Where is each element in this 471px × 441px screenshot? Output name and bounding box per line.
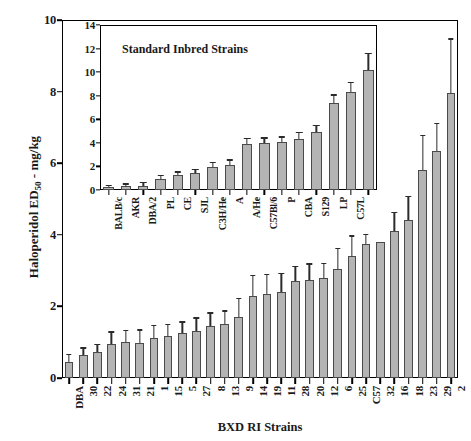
inset-error-cap (261, 137, 267, 138)
main-y-tick-label: 4 (50, 227, 56, 242)
figure-canvas: 0246810 Haloperidol ED50 - mg/kg DBA3022… (0, 0, 471, 441)
inset-x-tick-label: C3H/He (217, 197, 228, 230)
main-error-cap (165, 324, 170, 325)
main-bar (263, 294, 272, 378)
main-error-bar (238, 299, 239, 317)
inset-x-tick-label: DBA/2 (147, 197, 158, 224)
main-y-tick-label: 2 (50, 299, 56, 314)
inset-error-cap (192, 169, 198, 170)
main-bar (234, 317, 243, 378)
inset-x-tick-mark (195, 190, 196, 195)
inset-bar-group (242, 25, 252, 190)
inset-y-axis: 02468101214 (62, 25, 100, 190)
main-x-tick-mark (252, 378, 254, 384)
main-x-tick-label: 30 (87, 386, 99, 397)
main-error-bar (295, 267, 296, 281)
main-x-tick-mark (224, 378, 226, 384)
main-x-tick-label: 24 (116, 386, 128, 397)
inset-bar-group (103, 25, 113, 190)
main-error-cap (137, 329, 142, 330)
main-bar (291, 281, 300, 378)
inset-x-tick-label: SJL (199, 197, 210, 213)
inset-x-tick-label: S129 (320, 197, 331, 216)
inset-bar (207, 167, 217, 190)
inset-x-tick-labels: BALB/cAKRDBA/2PLCESJLC3H/HeAA/HeC57Bl/6P… (100, 197, 377, 242)
main-x-tick-labels: DBA30222431211155278139141911282012625C5… (62, 386, 458, 422)
inset-x-tick-mark (143, 190, 144, 195)
inset-error-bar (333, 96, 334, 104)
main-bar (432, 151, 441, 378)
inset-bar-group (329, 25, 339, 190)
main-error-bar (436, 124, 437, 151)
inset-bar-group (311, 25, 321, 190)
inset-error-bar (281, 138, 282, 142)
main-x-tick-label: 6 (342, 386, 354, 391)
inset-error-cap (157, 175, 163, 176)
inset-bar (311, 132, 321, 190)
inset-bar-group (190, 25, 200, 190)
inset-error-bar (246, 139, 247, 144)
main-error-bar (153, 326, 154, 337)
inset-x-tick-mark (212, 190, 213, 195)
main-x-tick-label: 16 (398, 386, 410, 397)
main-x-tick-label: 15 (172, 386, 184, 397)
main-bar (305, 280, 314, 378)
inset-x-tick-label: A/He (251, 197, 262, 218)
main-error-bar (408, 197, 409, 220)
main-error-bar (182, 323, 183, 334)
inset-error-bar (298, 133, 299, 138)
inset-x-tick-mark (247, 190, 248, 195)
main-x-tick-mark (295, 378, 297, 384)
inset-error-bar (177, 173, 178, 176)
inset-error-bar (368, 54, 369, 69)
main-x-tick-mark (167, 378, 169, 384)
main-bar (121, 342, 130, 378)
main-bar (362, 244, 371, 378)
main-error-bar (309, 265, 310, 280)
main-x-tick-mark (436, 378, 438, 384)
inset-error-cap (348, 82, 354, 83)
main-x-tick-mark (351, 378, 353, 384)
inset-y-tick-label: 2 (90, 160, 95, 172)
main-x-tick-mark (422, 378, 424, 384)
inset-x-tick-label: AKR (130, 197, 141, 218)
main-x-tick-mark (111, 378, 113, 384)
main-error-bar (125, 331, 126, 342)
main-bar (220, 324, 229, 378)
inset-x-tick-label: A (234, 197, 245, 204)
main-error-bar (266, 275, 267, 294)
inset-bar (277, 142, 287, 190)
main-error-bar (252, 276, 253, 296)
main-bar (93, 352, 102, 378)
main-error-cap (293, 266, 298, 267)
main-error-bar (337, 249, 338, 269)
main-error-cap (448, 38, 453, 39)
inset-error-cap (313, 125, 319, 126)
main-y-axis-title: Haloperidol ED50 - mg/kg (26, 87, 42, 327)
inset-bar (363, 70, 373, 190)
main-x-tick-mark (379, 378, 381, 384)
main-x-tick-mark (323, 378, 325, 384)
inset-error-bar (229, 161, 230, 165)
main-error-bar (139, 331, 140, 343)
inset-x-tick-label: P (286, 197, 297, 203)
main-bar-group (432, 20, 441, 378)
main-y-tick-label: 0 (50, 371, 56, 386)
inset-bar-group (277, 25, 287, 190)
inset-x-tick-mark (229, 190, 230, 195)
main-bar (277, 292, 286, 378)
main-x-tick-mark (153, 378, 155, 384)
inset-y-tick-label: 0 (90, 184, 95, 196)
main-x-tick-mark (238, 378, 240, 384)
main-x-tick-mark (196, 378, 198, 384)
main-y-tick-label: 10 (44, 13, 56, 28)
main-error-bar (450, 40, 451, 94)
inset-error-bar (195, 170, 196, 173)
main-error-cap (66, 354, 71, 355)
main-x-tick-label: 23 (427, 386, 439, 397)
main-error-cap (392, 212, 397, 213)
main-x-tick-label: 12 (328, 386, 340, 397)
inset-x-tick-mark (281, 190, 282, 195)
main-x-tick-label: 13 (229, 386, 241, 397)
inset-error-cap (175, 171, 181, 172)
